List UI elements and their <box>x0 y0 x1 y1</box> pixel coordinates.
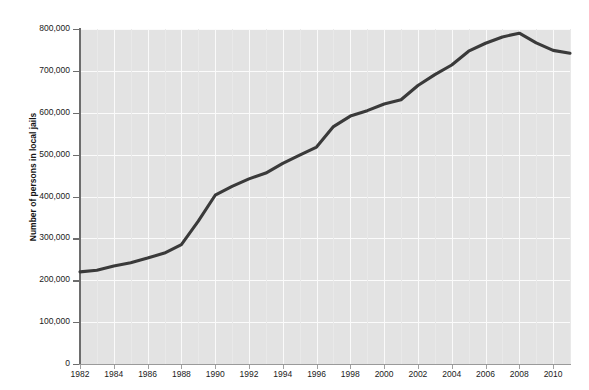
x-axis-tick-label: 2010 <box>533 369 573 379</box>
vertical-gridline <box>570 29 571 364</box>
y-axis-tick <box>73 71 79 72</box>
y-axis-tick <box>73 29 79 30</box>
y-axis-tick <box>73 197 79 198</box>
y-axis-tick-label: 600,000 <box>8 107 70 117</box>
y-axis-tick <box>73 364 79 365</box>
y-axis-tick <box>73 238 79 239</box>
y-axis-tick <box>73 155 79 156</box>
y-axis-tick-label: 100,000 <box>8 316 70 326</box>
y-axis-tick <box>73 322 79 323</box>
y-axis-tick-label: 300,000 <box>8 232 70 242</box>
y-axis-tick <box>73 280 79 281</box>
y-axis-tick-label: 700,000 <box>8 65 70 75</box>
y-axis-tick-label: 800,000 <box>8 23 70 33</box>
faint-top-caption <box>26 0 546 13</box>
y-axis-tick-label: 400,000 <box>8 191 70 201</box>
jail-population-line-chart: Number of persons in local jails 0100,00… <box>0 0 589 390</box>
data-series-layer <box>80 29 570 364</box>
y-axis-tick-label: 200,000 <box>8 274 70 284</box>
series-line-persons-in-local-jails <box>80 33 570 272</box>
y-axis-tick-label: 500,000 <box>8 149 70 159</box>
y-axis-tick-label: 0 <box>8 358 70 368</box>
y-axis-tick <box>73 113 79 114</box>
y-axis-tick-labels: 0100,000200,000300,000400,000500,000600,… <box>4 0 70 390</box>
x-axis-line <box>79 364 571 365</box>
